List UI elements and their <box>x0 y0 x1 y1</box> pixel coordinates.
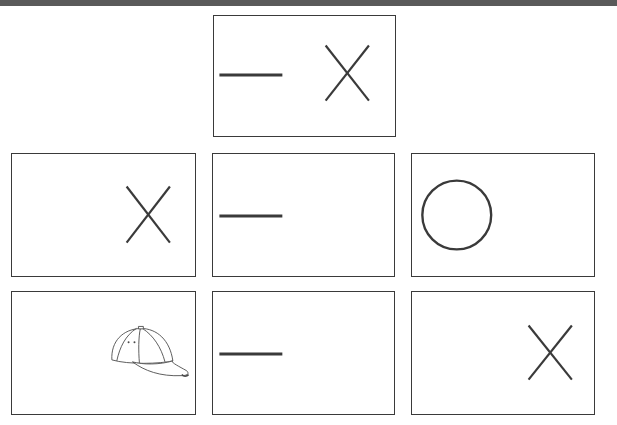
choice-card-dash[interactable]: Dash <box>212 153 395 277</box>
choice-card-x[interactable]: X <box>11 153 196 277</box>
dash-icon <box>213 154 394 276</box>
choice-card-x[interactable]: X <box>411 291 595 415</box>
x-icon <box>412 292 594 414</box>
x-icon <box>214 16 395 136</box>
dash-icon <box>213 292 394 414</box>
choice-card-circle[interactable]: Circle <box>411 153 595 277</box>
top-bar <box>0 0 617 6</box>
circle-icon <box>412 154 594 276</box>
choice-card-dash[interactable]: Dash <box>212 291 395 415</box>
example-card: Example: dash and X <box>213 15 396 137</box>
x-icon <box>12 154 195 276</box>
choice-card-cap[interactable]: Cap <box>11 291 196 415</box>
cap-icon <box>12 292 195 414</box>
